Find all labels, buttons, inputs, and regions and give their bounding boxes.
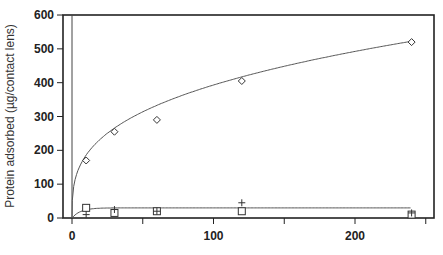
chart: 0100200300400500600 0100200 Protein adso… <box>0 0 443 255</box>
y-tick-label: 0 <box>47 211 54 225</box>
y-tick-label: 600 <box>34 8 54 22</box>
data-markers <box>83 39 415 219</box>
diamond-marker <box>238 77 245 84</box>
x-axis: 0100200 <box>69 218 426 243</box>
plus-marker <box>238 199 245 206</box>
plot-frame <box>63 15 434 218</box>
y-tick-label: 200 <box>34 143 54 157</box>
y-tick-label: 300 <box>34 110 54 124</box>
x-tick-label: 200 <box>345 229 365 243</box>
x-tick-label: 0 <box>69 229 76 243</box>
diamond-marker <box>408 39 415 46</box>
y-tick-label: 100 <box>34 177 54 191</box>
fit-curves <box>72 41 411 218</box>
y-tick-label: 500 <box>34 42 54 56</box>
y-axis-title: Protein adsorbed (µg/contact lens) <box>3 24 17 208</box>
y-tick-label: 400 <box>34 76 54 90</box>
diamond-marker <box>153 116 160 123</box>
y-axis: 0100200300400500600 <box>34 8 63 225</box>
square-marker <box>83 204 90 211</box>
fit-curve-upper <box>72 41 411 218</box>
square-marker <box>238 208 245 215</box>
plus-marker <box>83 211 90 218</box>
x-tick-label: 100 <box>203 229 223 243</box>
